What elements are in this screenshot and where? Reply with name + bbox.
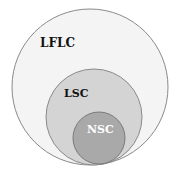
nested-circles-diagram: LFLC LSC NSC <box>0 0 176 174</box>
lflc-label: LFLC <box>40 36 75 50</box>
nsc-circle <box>73 112 125 164</box>
nsc-label: NSC <box>87 123 114 136</box>
lsc-label: LSC <box>64 87 89 100</box>
